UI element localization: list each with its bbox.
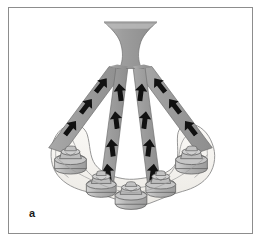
figure-panel: a [0, 0, 263, 243]
figure-frame: a [8, 7, 253, 234]
panel-label: a [29, 208, 35, 219]
flared-prosthesis-stem [104, 22, 157, 70]
force-distribution-illustration [9, 8, 252, 233]
